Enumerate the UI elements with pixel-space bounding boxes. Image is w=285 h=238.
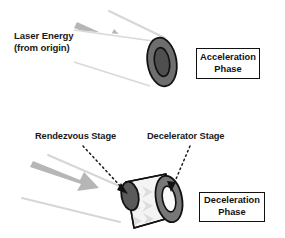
deceleration-phase-line1: Deceleration [204, 195, 260, 207]
laser-energy-line1: Laser Energy [14, 30, 74, 41]
cylinder-vehicle [74, 30, 153, 88]
acceleration-phase-line2: Phase [214, 64, 241, 76]
rendezvous-stage-label: Rendezvous Stage [35, 131, 116, 142]
laser-energy-arrow-lower [30, 161, 99, 191]
deceleration-phase-line2: Phase [218, 207, 245, 219]
figure-canvas: Laser Energy (from origin) Acceleration … [0, 0, 285, 238]
deceleration-panel [22, 146, 190, 228]
laser-energy-line2: (from origin) [14, 42, 74, 54]
laser-energy-label: Laser Energy (from origin) [14, 30, 74, 53]
acceleration-phase-line1: Acceleration [200, 52, 256, 64]
decelerator-stage-label: Decelerator Stage [147, 131, 224, 142]
acceleration-panel [74, 11, 180, 88]
acceleration-phase-box: Acceleration Phase [196, 48, 260, 79]
deceleration-phase-box: Deceleration Phase [199, 192, 265, 222]
beam-line-lower-bottom [22, 198, 120, 222]
